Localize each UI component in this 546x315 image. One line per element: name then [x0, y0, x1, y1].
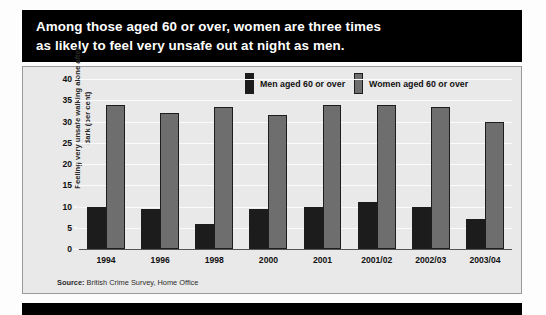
bar-men — [141, 209, 160, 249]
y-tick-label-5: 5 — [67, 223, 72, 233]
x-tick-label: 1998 — [195, 255, 233, 265]
bar-men — [358, 202, 377, 249]
y-tick-label-20: 20 — [62, 159, 72, 169]
bar-group: 1994 — [87, 79, 125, 249]
source-text: British Crime Survey, Home Office — [85, 278, 199, 287]
bar-men — [304, 207, 323, 250]
y-tick-mark-5 — [73, 227, 78, 228]
bar-women — [323, 105, 342, 250]
bar-men — [87, 207, 106, 250]
bar-women — [106, 105, 125, 250]
y-tick-label-15: 15 — [62, 180, 72, 190]
bar-women — [485, 122, 504, 250]
y-tick-label-30: 30 — [62, 117, 72, 127]
bar-women — [431, 107, 450, 249]
bar-men — [466, 219, 485, 249]
y-tick-mark-20 — [73, 164, 78, 165]
bar-men — [249, 209, 268, 249]
x-tick-label: 2001/02 — [358, 255, 396, 265]
bottom-band — [22, 303, 522, 315]
source-label: Source: — [57, 278, 85, 287]
y-tick-mark-0 — [73, 249, 78, 250]
bar-group: 1998 — [195, 79, 233, 249]
bar-group: 2001/02 — [358, 79, 396, 249]
y-tick-label-0: 0 — [67, 244, 72, 254]
page-title-line-1: Among those aged 60 or over, women are t… — [36, 17, 508, 36]
y-tick-label-35: 35 — [62, 95, 72, 105]
y-tick-label-25: 25 — [62, 138, 72, 148]
chart-panel: Feeling very unsafe walking alone after … — [22, 66, 522, 294]
bar-women — [377, 105, 396, 250]
figure-container: Among those aged 60 or over, women are t… — [0, 0, 546, 315]
y-tick-mark-25 — [73, 142, 78, 143]
y-tick-mark-30 — [73, 121, 78, 122]
x-tick-label: 2001 — [304, 255, 342, 265]
x-tick-label: 1994 — [87, 255, 125, 265]
bar-women — [160, 113, 179, 249]
gridline-0 — [79, 249, 512, 250]
plot-area: 0510152025303540199419961998200020012001… — [79, 79, 512, 249]
x-tick-label: 2002/03 — [412, 255, 450, 265]
bar-group: 2002/03 — [412, 79, 450, 249]
source-note: Source: British Crime Survey, Home Offic… — [57, 278, 198, 287]
y-tick-label-40: 40 — [62, 74, 72, 84]
page-title-line-2: as likely to feel very unsafe out at nig… — [36, 36, 508, 55]
bar-group: 2001 — [304, 79, 342, 249]
y-tick-mark-10 — [73, 206, 78, 207]
y-tick-mark-35 — [73, 100, 78, 101]
y-tick-mark-15 — [73, 185, 78, 186]
bar-men — [195, 224, 214, 250]
bar-group: 2000 — [249, 79, 287, 249]
x-tick-label: 2003/04 — [466, 255, 504, 265]
bar-group: 2003/04 — [466, 79, 504, 249]
y-tick-mark-40 — [73, 79, 78, 80]
bar-women — [268, 115, 287, 249]
x-tick-label: 2000 — [249, 255, 287, 265]
y-tick-label-10: 10 — [62, 202, 72, 212]
bar-men — [412, 207, 431, 250]
bar-women — [214, 107, 233, 249]
bar-group: 1996 — [141, 79, 179, 249]
x-tick-label: 1996 — [141, 255, 179, 265]
